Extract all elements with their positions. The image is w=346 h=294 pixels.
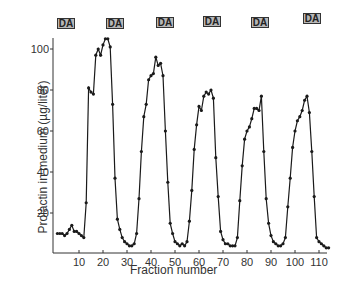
data-point xyxy=(133,242,136,245)
data-point xyxy=(147,78,150,81)
x-tick-label: 10 xyxy=(73,256,85,268)
data-point xyxy=(250,117,253,120)
x-tick-label: 90 xyxy=(265,256,277,268)
data-point xyxy=(97,47,100,50)
data-point xyxy=(327,246,330,249)
data-point xyxy=(164,129,167,132)
data-point xyxy=(308,111,311,114)
data-point xyxy=(243,138,246,141)
da-badge: DA xyxy=(106,18,124,29)
data-point xyxy=(212,97,215,100)
axes: 20406080100102030405060708090100110 xyxy=(31,38,328,268)
data-point xyxy=(238,199,241,202)
data-point xyxy=(159,62,162,65)
data-point xyxy=(236,236,239,239)
data-point xyxy=(188,220,191,223)
data-point xyxy=(214,156,217,159)
data-point xyxy=(135,232,138,235)
data-point xyxy=(233,244,236,247)
y-tick-label: 100 xyxy=(31,43,49,55)
da-badge: DA xyxy=(303,13,321,24)
data-point xyxy=(142,115,145,118)
data-point xyxy=(200,109,203,112)
data-point xyxy=(289,177,292,180)
data-point xyxy=(166,181,169,184)
data-point xyxy=(241,164,244,167)
data-point xyxy=(286,205,289,208)
data-point xyxy=(140,150,143,153)
data-point xyxy=(284,236,287,239)
data-point xyxy=(154,56,157,59)
data-point xyxy=(193,148,196,151)
data-point xyxy=(209,88,212,91)
data-point xyxy=(92,93,95,96)
data-point xyxy=(94,54,97,57)
data-point xyxy=(99,54,102,57)
data-point xyxy=(190,189,193,192)
data-point xyxy=(301,109,304,112)
y-axis-label: Prolactin in medium (µg/liter) xyxy=(36,62,50,252)
data-point xyxy=(293,129,296,132)
data-point xyxy=(310,150,313,153)
data-point xyxy=(152,72,155,75)
data-point xyxy=(183,244,186,247)
data-point xyxy=(260,95,263,98)
data-point xyxy=(269,234,272,237)
data-point xyxy=(281,242,284,245)
data-point xyxy=(257,109,260,112)
data-point xyxy=(315,236,318,239)
data-point xyxy=(265,197,268,200)
data-point xyxy=(111,103,114,106)
data-point xyxy=(185,240,188,243)
data-point xyxy=(68,228,71,231)
x-tick-label: 20 xyxy=(97,256,109,268)
x-tick-label: 80 xyxy=(241,256,253,268)
data-point xyxy=(267,222,270,225)
data-point xyxy=(82,236,85,239)
data-point xyxy=(219,230,222,233)
data-point xyxy=(65,232,68,235)
data-point xyxy=(85,201,88,204)
data-point xyxy=(113,177,116,180)
data-point xyxy=(202,95,205,98)
data-point xyxy=(145,103,148,106)
data-point xyxy=(161,74,164,77)
line-chart: 20406080100102030405060708090100110 xyxy=(0,0,346,294)
data-point xyxy=(171,232,174,235)
data-point xyxy=(121,236,124,239)
data-point xyxy=(197,105,200,108)
data-point xyxy=(101,43,104,46)
da-badge: DA xyxy=(203,16,221,27)
data-point xyxy=(296,119,299,122)
data-point xyxy=(207,93,210,96)
data-line xyxy=(57,39,328,248)
data-point xyxy=(298,115,301,118)
data-point xyxy=(221,238,224,241)
data-point xyxy=(245,129,248,132)
data-point xyxy=(106,37,109,40)
data-point xyxy=(262,150,265,153)
x-tick-label: 70 xyxy=(217,256,229,268)
x-axis-label: Fraction number xyxy=(130,263,217,277)
data-point xyxy=(313,195,316,198)
data-point xyxy=(248,125,251,128)
data-point xyxy=(169,222,172,225)
data-point xyxy=(195,123,198,126)
data-point xyxy=(116,218,119,221)
plot-area xyxy=(56,37,330,249)
data-point xyxy=(303,99,306,102)
da-badge: DA xyxy=(251,17,269,28)
data-point xyxy=(305,95,308,98)
data-point xyxy=(137,197,140,200)
da-badge: DA xyxy=(57,18,75,29)
data-point xyxy=(87,86,90,89)
data-point xyxy=(291,146,294,149)
data-point xyxy=(118,228,121,231)
data-point xyxy=(70,224,73,227)
x-tick-label: 100 xyxy=(286,256,304,268)
da-badge: DA xyxy=(156,17,174,28)
data-point xyxy=(109,45,112,48)
x-tick-label: 110 xyxy=(310,256,328,268)
data-point xyxy=(217,195,220,198)
